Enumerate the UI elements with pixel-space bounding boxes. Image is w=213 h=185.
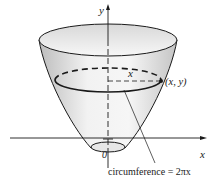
circumference-annotation: circumference = 2πx	[108, 166, 191, 177]
x-axis-label: x	[199, 148, 205, 160]
point-marker	[159, 79, 163, 83]
radius-label: x	[127, 67, 133, 79]
point-label: (x, y)	[165, 76, 187, 88]
paraboloid-diagram: y x (x, y) 0 x circumference = 2πx	[0, 0, 213, 185]
y-axis-arrow-icon	[106, 4, 110, 10]
origin-label: 0	[102, 149, 107, 160]
y-axis-label: y	[98, 4, 104, 16]
x-axis-arrow-icon	[200, 136, 207, 140]
